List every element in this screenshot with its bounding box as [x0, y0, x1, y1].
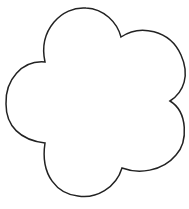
- flower-outline-shape: [0, 0, 189, 209]
- flower-outline-path: [6, 8, 185, 197]
